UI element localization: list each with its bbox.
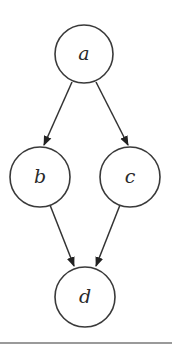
bottom-divider [0, 342, 172, 344]
node-a: a [55, 25, 113, 83]
dag-diagram: a b c d [0, 0, 172, 345]
node-d-label: d [79, 285, 91, 307]
edge-b-to-d [50, 205, 74, 266]
edge-a-to-b [44, 82, 72, 145]
node-d: d [55, 267, 115, 327]
node-c-label: c [125, 165, 136, 187]
node-b-label: b [34, 165, 46, 187]
node-c: c [100, 147, 160, 207]
edge-c-to-d [96, 205, 120, 266]
node-b: b [10, 147, 70, 207]
edge-a-to-c [96, 82, 128, 145]
node-a-label: a [78, 42, 89, 64]
